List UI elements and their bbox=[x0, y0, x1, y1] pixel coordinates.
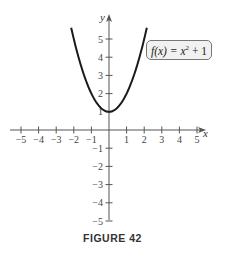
y-axis-label: y bbox=[99, 11, 105, 23]
x-tick-label: −4 bbox=[33, 134, 44, 145]
function-label: f(x) = x2 + 1 bbox=[146, 40, 212, 60]
y-tick-label: −5 bbox=[92, 216, 103, 227]
figure-caption: FIGURE 42 bbox=[0, 232, 225, 244]
y-tick-label: 4 bbox=[98, 52, 103, 63]
label-prefix: f(x) = x bbox=[151, 44, 186, 56]
y-tick-label: −2 bbox=[92, 161, 103, 172]
y-tick-label: 5 bbox=[98, 34, 103, 45]
y-tick-label: 3 bbox=[98, 70, 103, 81]
y-tick-label: 2 bbox=[98, 88, 103, 99]
x-tick-label: −3 bbox=[51, 134, 62, 145]
x-tick-label: 4 bbox=[177, 134, 182, 145]
y-tick-label: −3 bbox=[92, 179, 103, 190]
y-tick-label: −4 bbox=[92, 197, 103, 208]
x-axis-label: x bbox=[202, 127, 208, 139]
x-tick-label: 5 bbox=[195, 134, 200, 145]
x-tick-label: −5 bbox=[16, 134, 27, 145]
x-tick-label: −2 bbox=[68, 134, 79, 145]
x-tick-label: 2 bbox=[142, 134, 147, 145]
x-tick-label: 1 bbox=[124, 134, 129, 145]
x-tick-label: 3 bbox=[159, 134, 164, 145]
y-tick-label: −1 bbox=[92, 143, 103, 154]
label-suffix: + 1 bbox=[189, 44, 207, 56]
